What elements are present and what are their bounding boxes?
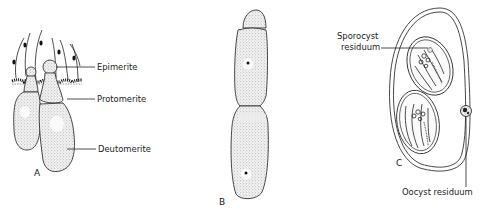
host-nucleus	[12, 59, 15, 64]
figure-canvas: Epimerite Protomerite Deutomerite A B	[0, 0, 491, 211]
panel-letter-b: B	[219, 197, 225, 207]
sporocyst-residuum-body	[428, 48, 433, 53]
protomerite-structure	[40, 73, 63, 103]
gregarine-large	[39, 60, 74, 172]
label-deutomerite: Deutomerite	[98, 144, 151, 154]
sporocyst-lower	[392, 87, 444, 157]
label-oocyst-residuum: Oocyst residuum	[402, 187, 473, 197]
host-nucleus	[57, 49, 60, 54]
nucleus-lower	[245, 172, 248, 175]
label-epimerite: Epimerite	[97, 62, 137, 72]
gregarine-small	[14, 67, 41, 150]
panel-letter-a: A	[34, 168, 41, 178]
label-protomerite: Protomerite	[97, 94, 146, 104]
label-sporocyst-residuum-line2: residuum	[341, 42, 380, 52]
host-nucleus	[23, 42, 26, 47]
sporocyst-upper	[399, 30, 461, 101]
nucleus	[50, 116, 64, 132]
panel-a-gregarine-attached: Epimerite Protomerite Deutomerite A	[12, 30, 151, 178]
host-nucleus	[39, 40, 42, 45]
epimerite-structure	[43, 60, 57, 74]
host-nucleus	[72, 55, 75, 60]
label-sporocyst-residuum-line1: Sporocyst	[337, 31, 379, 41]
epimerite-cap	[243, 10, 266, 28]
panel-c-oocyst: Sporocyst residuum Oocyst residuum C	[337, 8, 473, 197]
panel-letter-c: C	[396, 158, 402, 168]
deutomerite-structure	[39, 103, 74, 172]
nucleus-upper	[247, 62, 250, 65]
panel-b-syzygy: B	[219, 10, 268, 207]
